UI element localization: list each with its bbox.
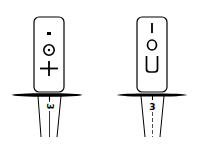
left-figure: 3 — [12, 17, 82, 137]
right-figure: 3 — [117, 17, 187, 137]
diagram-canvas: 3 3 — [0, 0, 197, 150]
right-disc — [117, 93, 187, 96]
circled-dot-center — [48, 49, 50, 51]
left-stem-label: 3 — [45, 103, 55, 109]
left-disc — [12, 93, 82, 97]
right-stem-label: 3 — [149, 102, 155, 112]
dot-icon — [47, 32, 51, 35]
